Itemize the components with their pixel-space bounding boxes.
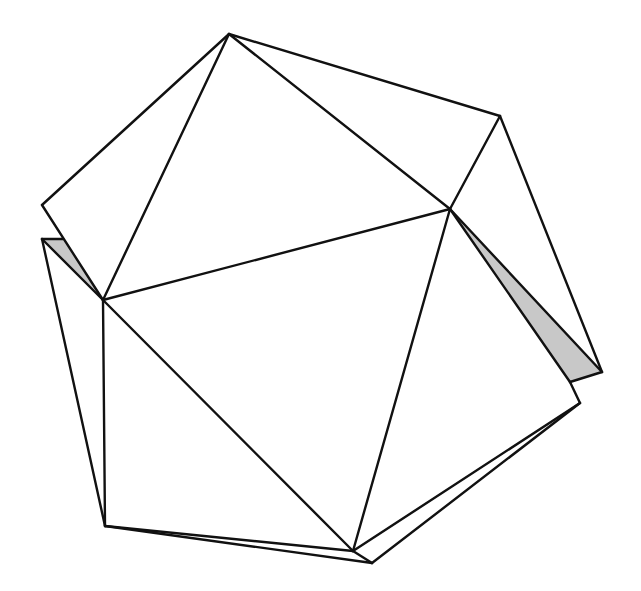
edge-L2-C (42, 239, 103, 300)
edge-C-B (103, 300, 353, 551)
edge-C-BL (103, 300, 105, 526)
edge-R-FR (450, 209, 602, 372)
edge-TR-R (450, 116, 500, 209)
edge-T-TR (229, 34, 500, 116)
edge-T-R (229, 34, 450, 209)
edge-G-BR (570, 382, 580, 403)
edge-BL-B (105, 526, 353, 551)
edge-T-L1 (42, 34, 229, 205)
edge-T-C (103, 34, 229, 300)
edge-B-BR (353, 403, 580, 551)
polyhedron-diagram (0, 0, 641, 591)
edge-R-B (353, 209, 450, 551)
edge-C-R (103, 209, 450, 300)
edge-B2-BR (372, 403, 580, 563)
shaded-faces (42, 209, 602, 382)
polyhedron-figure (0, 0, 641, 591)
edge-L2-BL (42, 239, 105, 526)
edge-R-G (450, 209, 570, 382)
